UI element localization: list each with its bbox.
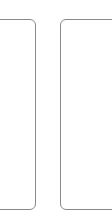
- card-left-content: [0, 20, 35, 209]
- card-right-content: [61, 20, 112, 209]
- viewport: [0, 0, 112, 216]
- card-left[interactable]: [0, 19, 36, 210]
- card-right[interactable]: [60, 19, 112, 210]
